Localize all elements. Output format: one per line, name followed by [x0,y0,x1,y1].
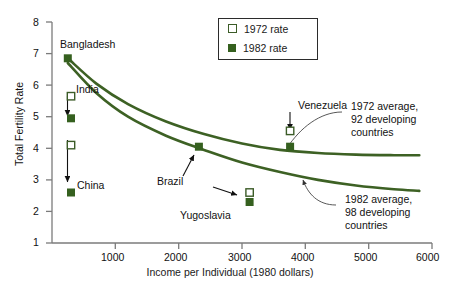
annotation-1972-line3: countries [351,126,418,139]
marker-venezuela-1972 [286,127,293,134]
label-yugoslavia: Yugoslavia [180,209,231,221]
x-tick-label-6000: 6000 [416,251,439,263]
legend-label-1972: 1972 rate [244,23,288,35]
x-axis-title: Income per Individual (1980 dollars) [105,266,355,278]
y-tick-label-4: 4 [33,142,39,154]
label-brazil: Brazil [157,175,183,187]
marker-india-1972 [67,93,74,100]
label-bangladesh: Bangladesh [60,38,115,50]
note-1982-leader [303,180,336,205]
marker-yugoslavia-1982 [246,198,254,206]
label-india: India [76,83,99,95]
annotation-1982-line1: 1982 average, [345,193,412,206]
annotation-1982-line3: countries [345,219,412,232]
x-tick-label-4000: 4000 [291,251,314,263]
fertility-income-chart: 8 7 6 5 4 3 2 1 1000 2000 3000 4000 5000… [0,0,450,286]
y-axis-title: Total Fertility Rate [13,69,25,179]
note-1972-leader [287,112,342,148]
annotation-1972-average: 1972 average, 92 developing countries [351,100,418,139]
legend-item-1982: 1982 rate [219,38,317,57]
marker-venezuela-1982 [286,143,294,151]
label-venezuela: Venezuela [298,99,347,111]
filled-square-icon [228,44,236,52]
annotation-1982-line2: 98 developing [345,206,412,219]
open-square-icon [228,24,237,33]
x-tick-label-1000: 1000 [101,251,124,263]
y-tick-label-8: 8 [33,16,39,28]
annotation-1982-average: 1982 average, 98 developing countries [345,193,412,232]
marker-bangladesh-1982 [64,54,72,62]
legend-item-1972: 1972 rate [219,19,317,38]
marker-yugoslavia-1972 [246,189,253,196]
marker-india-1982 [67,114,75,122]
yugoslavia-change-arrow [213,187,237,195]
marker-brazil-1982 [195,143,203,151]
legend: 1972 rate 1982 rate [218,18,318,60]
y-tick-label-1: 1 [33,236,39,248]
y-tick-marks [46,22,52,243]
x-tick-label-5000: 5000 [354,251,377,263]
x-tick-marks [115,243,432,249]
y-tick-label-5: 5 [33,110,39,122]
x-tick-label-3000: 3000 [228,251,251,263]
marker-china-1982 [67,189,75,197]
legend-label-1982: 1982 rate [243,42,287,54]
annotation-1972-line2: 92 developing [351,113,418,126]
y-tick-label-6: 6 [33,79,39,91]
annotation-1972-line1: 1972 average, [351,100,418,113]
label-china: China [77,179,104,191]
y-tick-label-2: 2 [33,205,39,217]
x-tick-label-2000: 2000 [164,251,187,263]
y-tick-label-3: 3 [33,173,39,185]
y-tick-label-7: 7 [33,47,39,59]
marker-china-1972 [67,141,74,148]
brazil-pointer-arrow [183,155,194,176]
